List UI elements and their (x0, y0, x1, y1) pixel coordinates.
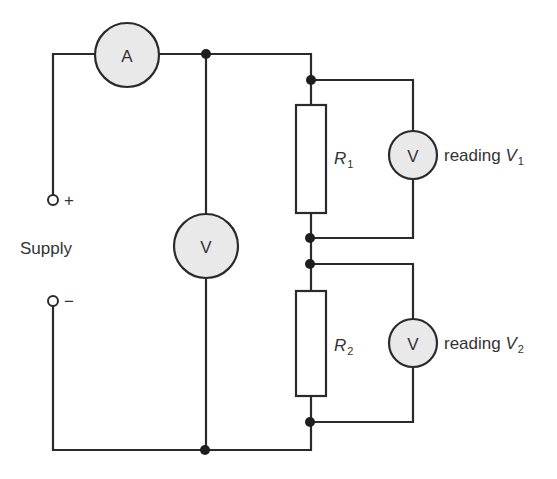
negative-symbol: − (64, 292, 74, 311)
ammeter: A (95, 23, 159, 87)
junction-node (201, 49, 211, 59)
resistor-r2: R2 (296, 291, 353, 396)
junction-node (200, 445, 210, 455)
wire-supply-positive (53, 54, 95, 194)
junction-node (305, 417, 315, 427)
junction-node (305, 233, 315, 243)
voltmeter-supply: V (174, 214, 238, 278)
junction-node (306, 75, 316, 85)
resistor-r1: R1 (296, 105, 353, 213)
voltmeter-v1: V reading V1 (389, 131, 524, 179)
resistor-r1-symbol: R1 (334, 149, 353, 170)
voltmeter-v2-label: V (407, 335, 419, 354)
negative-terminal (48, 296, 58, 306)
wire-bottom (53, 307, 311, 450)
voltmeter-v2: V reading V2 (389, 319, 524, 367)
circuit-diagram: + Supply − A V R1 R2 V reading V1 V read… (0, 0, 557, 479)
voltmeter-v1-label: V (407, 147, 419, 166)
resistor-r2-body (296, 291, 326, 396)
resistor-r1-body (296, 105, 326, 213)
positive-symbol: + (64, 191, 74, 210)
supply-label: Supply (20, 239, 72, 258)
resistor-r2-symbol: R2 (334, 336, 353, 357)
reading-v2-label: reading V2 (444, 334, 524, 355)
voltmeter-supply-label: V (200, 238, 212, 257)
positive-terminal (48, 195, 58, 205)
wire-top (159, 54, 311, 80)
supply-terminals: + Supply − (20, 191, 74, 311)
ammeter-label: A (121, 47, 133, 66)
reading-v1-label: reading V1 (444, 146, 524, 167)
junction-node (305, 259, 315, 269)
